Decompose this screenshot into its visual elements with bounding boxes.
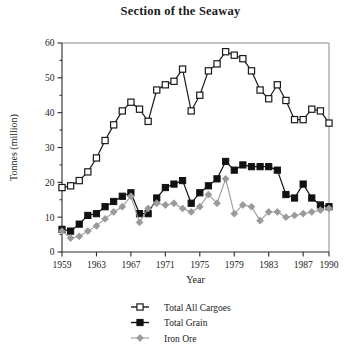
x-axis-tick-label: 1979 — [225, 260, 244, 270]
legend-item-iron-ore[interactable]: Iron Ore — [131, 334, 196, 344]
data-point-marker — [205, 183, 211, 189]
data-point-marker — [274, 167, 280, 173]
legend-label: Iron Ore — [164, 334, 196, 344]
data-point-marker — [283, 191, 289, 197]
data-point-marker — [128, 99, 134, 105]
y-axis-title: Tonnes (million) — [8, 114, 20, 181]
data-point-marker — [76, 221, 82, 227]
data-point-marker — [93, 155, 99, 161]
x-axis-tick-label: 1959 — [53, 260, 72, 270]
data-point-marker — [248, 164, 254, 170]
data-point-marker — [309, 195, 315, 201]
data-point-marker — [136, 106, 142, 112]
data-point-marker — [171, 78, 177, 84]
data-point-marker — [240, 162, 246, 168]
data-point-marker — [214, 176, 220, 182]
x-axis-tick-label: 1971 — [156, 260, 175, 270]
legend-marker — [137, 319, 143, 325]
legend-marker — [137, 304, 143, 310]
legend-label: Total Grain — [164, 318, 208, 328]
data-point-marker — [257, 87, 263, 93]
chart-plot-area: 0102030405060195919631967197119751979198… — [0, 0, 361, 349]
data-point-marker — [59, 184, 65, 190]
data-point-marker — [171, 200, 178, 207]
legend-marker — [137, 335, 144, 342]
series-total-all-cargoes — [59, 49, 332, 191]
x-axis-tick-label: 1975 — [190, 260, 209, 270]
y-axis-tick-label: 50 — [45, 73, 55, 83]
data-series — [59, 49, 333, 242]
data-point-marker — [309, 106, 315, 112]
y-axis-tick-label: 60 — [45, 38, 55, 48]
data-point-marker — [248, 203, 255, 210]
x-axis-tick-label: 1963 — [87, 260, 106, 270]
legend-item-total-all-cargoes[interactable]: Total All Cargoes — [131, 303, 231, 313]
y-axis-tick-label: 10 — [45, 213, 55, 223]
data-point-marker — [162, 82, 168, 88]
data-point-marker — [119, 193, 125, 199]
data-point-marker — [266, 164, 272, 170]
series-line — [62, 52, 329, 188]
data-point-marker — [283, 214, 290, 221]
data-point-marker — [111, 122, 117, 128]
axes: 0102030405060195919631967197119751979198… — [8, 38, 339, 285]
data-point-marker — [102, 204, 108, 210]
data-point-marker — [222, 175, 229, 182]
data-point-marker — [197, 92, 203, 98]
data-point-marker — [326, 120, 332, 126]
data-point-marker — [76, 177, 82, 183]
data-point-marker — [119, 108, 125, 114]
data-point-marker — [85, 212, 91, 218]
y-axis-tick-label: 30 — [45, 143, 55, 153]
data-point-marker — [68, 183, 74, 189]
x-axis-tick-label: 1990 — [320, 260, 339, 270]
data-point-marker — [231, 52, 237, 58]
data-point-marker — [84, 228, 91, 235]
data-point-marker — [300, 210, 307, 217]
series-iron-ore — [59, 175, 333, 241]
y-axis-tick-label: 0 — [50, 247, 55, 257]
data-point-marker — [179, 66, 185, 72]
y-axis-tick-label: 20 — [45, 178, 55, 188]
data-point-marker — [205, 68, 211, 74]
legend-label: Total All Cargoes — [164, 303, 231, 313]
data-point-marker — [136, 219, 143, 226]
data-point-marker — [257, 164, 263, 170]
data-point-marker — [231, 167, 237, 173]
data-point-marker — [188, 209, 195, 216]
data-point-marker — [291, 212, 298, 219]
data-point-marker — [300, 117, 306, 123]
data-point-marker — [214, 61, 220, 67]
data-point-marker — [223, 158, 229, 164]
data-point-marker — [171, 181, 177, 187]
x-axis-tick-label: 1967 — [121, 260, 140, 270]
data-point-marker — [179, 177, 185, 183]
data-point-marker — [188, 108, 194, 114]
x-axis-tick-label: 1983 — [259, 260, 278, 270]
legend-item-total-grain[interactable]: Total Grain — [131, 318, 208, 328]
x-axis-title: Year — [186, 274, 205, 285]
data-point-marker — [68, 228, 74, 234]
x-axis-tick-label: 1987 — [294, 260, 313, 270]
data-point-marker — [274, 209, 281, 216]
data-point-marker — [283, 97, 289, 103]
data-point-marker — [111, 198, 117, 204]
data-point-marker — [188, 200, 194, 206]
data-point-marker — [223, 49, 229, 55]
data-point-marker — [291, 195, 297, 201]
chart-figure: Section of the Seaway 010203040506019591… — [0, 0, 361, 349]
data-point-marker — [196, 203, 203, 210]
data-point-marker — [145, 118, 151, 124]
data-point-marker — [291, 117, 297, 123]
data-point-marker — [248, 68, 254, 74]
chart-legend: Total All CargoesTotal GrainIron Ore — [131, 303, 231, 344]
data-point-marker — [300, 181, 306, 187]
data-point-marker — [102, 137, 108, 143]
data-point-marker — [76, 233, 83, 240]
data-point-marker — [274, 82, 280, 88]
data-point-marker — [85, 169, 91, 175]
y-axis-tick-label: 40 — [45, 108, 55, 118]
data-point-marker — [162, 202, 169, 209]
data-point-marker — [162, 184, 168, 190]
data-point-marker — [266, 96, 272, 102]
